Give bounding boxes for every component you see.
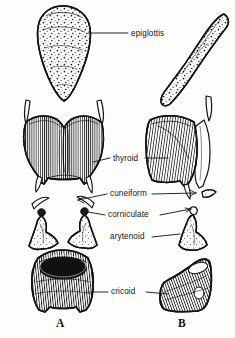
panel-label-a: A bbox=[56, 318, 64, 330]
panel-a-corniculate-left bbox=[38, 209, 46, 217]
panel-b-cuneiform bbox=[202, 190, 216, 198]
panel-a-arytenoid-left bbox=[29, 216, 58, 249]
panel-a-epiglottis bbox=[38, 6, 91, 101]
panel-b-epiglottis bbox=[161, 14, 229, 106]
anatomy-figure: epiglottis thyroid cuneiform corniculate… bbox=[0, 0, 235, 338]
label-epiglottis: epiglottis bbox=[131, 30, 164, 38]
panel-a-cuneiform-left bbox=[32, 197, 49, 209]
leader-arytenoid-b bbox=[152, 234, 180, 237]
panel-b-cricoid bbox=[160, 259, 211, 311]
label-thyroid: thyroid bbox=[113, 155, 138, 163]
leader-corniculate-a bbox=[88, 212, 105, 215]
panel-a-arytenoid-right bbox=[68, 215, 97, 248]
label-corniculate: corniculate bbox=[108, 211, 149, 219]
panel-label-b: B bbox=[178, 318, 186, 330]
panel-b-arytenoid bbox=[179, 215, 207, 250]
label-cricoid: cricoid bbox=[111, 288, 135, 296]
panel-a-thyroid bbox=[24, 100, 104, 193]
panel-a-corniculate-right bbox=[81, 208, 89, 216]
panel-b-corniculate bbox=[190, 207, 198, 215]
label-arytenoid: arytenoid bbox=[110, 233, 145, 241]
panel-a-cricoid bbox=[32, 250, 94, 312]
label-cuneiform: cuneiform bbox=[110, 190, 147, 198]
panel-b-thyroid bbox=[146, 96, 212, 199]
